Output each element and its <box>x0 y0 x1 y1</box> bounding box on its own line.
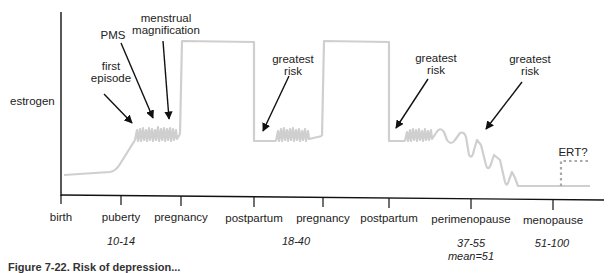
annotation-first-episode: first episode <box>88 60 134 84</box>
arrow-first-episode <box>104 94 132 123</box>
annotation-line: PMS <box>96 29 130 41</box>
arrow-greatest-risk-1 <box>263 76 289 131</box>
age-range-perimenopause: 37-55 <box>446 237 496 250</box>
annotation-line: ERT? <box>558 146 588 158</box>
arrow-greatest-risk-3 <box>486 82 522 129</box>
age-mean-perimenopause: mean=51 <box>441 250 501 263</box>
x-label-menopause: menopause <box>513 214 593 227</box>
annotation-line: greatest <box>411 52 461 64</box>
annotation-line: magnification <box>130 24 202 36</box>
annotation-line: first <box>88 60 134 72</box>
annotation-greatest-risk-3: greatest risk <box>505 53 555 77</box>
age-range-reproductive: 18-40 <box>271 235 321 248</box>
y-axis-label: estrogen <box>10 95 55 108</box>
x-label-pregnancy-2: pregnancy <box>288 212 358 225</box>
annotation-line: episode <box>88 72 134 84</box>
age-range-puberty: 10-14 <box>96 235 146 248</box>
annotation-greatest-risk-2: greatest risk <box>411 52 461 76</box>
ert-dotted-line <box>561 161 590 186</box>
annotation-line: greatest <box>268 53 318 65</box>
annotation-line: menstrual <box>130 12 202 24</box>
annotation-greatest-risk-1: greatest risk <box>268 53 318 77</box>
annotation-ert: ERT? <box>558 146 588 158</box>
annotation-line: risk <box>505 65 555 77</box>
arrow-menstrual-magnification <box>163 41 169 119</box>
x-label-postpartum-1: postpartum <box>214 212 294 225</box>
x-label-pregnancy-1: pregnancy <box>146 211 216 224</box>
annotation-pms: PMS <box>96 29 130 41</box>
age-range-menopause: 51-100 <box>527 237 577 250</box>
annotation-menstrual-magnification: menstrual magnification <box>130 12 202 36</box>
arrow-greatest-risk-2 <box>396 79 428 128</box>
x-axis <box>61 195 604 200</box>
figure-caption: Figure 7-22. Risk of depression... <box>8 261 180 273</box>
annotation-line: risk <box>411 64 461 76</box>
x-label-perimenopause: perimenopause <box>421 213 521 226</box>
annotation-line: risk <box>268 65 318 77</box>
annotation-line: greatest <box>505 53 555 65</box>
x-label-birth: birth <box>36 211 86 224</box>
x-label-postpartum-2: postpartum <box>349 212 429 225</box>
